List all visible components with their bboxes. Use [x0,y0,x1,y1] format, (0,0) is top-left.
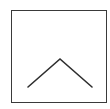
scroll-up-button[interactable]: Scroll up [11,10,107,103]
scroll-up-label: Scroll up [12,11,13,12]
